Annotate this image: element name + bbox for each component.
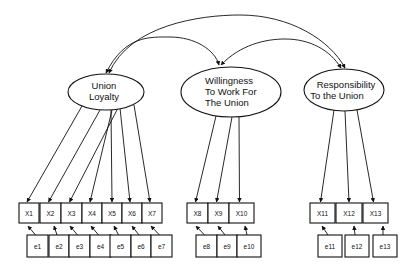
indicator-x12: X12: [336, 203, 362, 223]
error-label: e1: [34, 243, 42, 250]
indicator-label: X9: [215, 210, 223, 217]
latent-willingness: Willingness To Work For The Union: [181, 67, 281, 117]
correlation-loyalty-willingness: [106, 37, 219, 73]
loading-arrow-x9: [217, 117, 233, 202]
loading-arrow-x6: [120, 108, 130, 202]
loading-arrow-x2: [49, 110, 101, 202]
latent-label-line: Willingness: [205, 75, 253, 86]
indicator-label: X6: [128, 210, 136, 217]
indicator-label: X12: [343, 210, 355, 217]
indicator-x10: X10: [229, 203, 254, 223]
correlation-willingness-responsibility: [221, 39, 341, 68]
indicator-label: X1: [25, 210, 33, 217]
loading-arrow-x5: [111, 110, 112, 202]
error-e1: e1: [27, 235, 48, 257]
error-label: e4: [97, 243, 105, 250]
correlation-arcs: [106, 15, 345, 73]
indicator-x5: X5: [102, 203, 122, 223]
indicator-x7: X7: [142, 203, 162, 223]
loading-arrow-x11: [321, 110, 335, 202]
error-arrow-e10: [245, 226, 247, 235]
error-arrow-e4: [91, 226, 99, 235]
error-arrow-e3: [70, 226, 78, 235]
error-label: e7: [158, 243, 166, 250]
error-e8: e8: [196, 235, 217, 257]
error-e11: e11: [318, 235, 342, 257]
indicator-x1: X1: [19, 203, 39, 223]
factor-loadings: [27, 105, 374, 202]
error-arrow-e8: [196, 226, 205, 235]
sem-diagram: Union Loyalty Willingness To Work For Th…: [0, 0, 414, 273]
correlation-loyalty-responsibility: [109, 15, 345, 73]
error-label: e8: [203, 243, 211, 250]
error-label: e3: [76, 243, 84, 250]
error-label: e12: [352, 243, 363, 250]
error-e5: e5: [110, 235, 131, 257]
latent-label-line: The Union: [205, 97, 249, 108]
indicator-label: X13: [370, 210, 382, 217]
loading-arrow-x7: [134, 105, 150, 202]
error-label: e2: [55, 243, 63, 250]
latent-label-line: To Work For: [205, 86, 257, 97]
indicator-label: X7: [148, 210, 156, 217]
error-e13: e13: [373, 235, 397, 257]
error-e2: e2: [49, 235, 69, 257]
indicator-label: X2: [47, 210, 55, 217]
indicator-label: X4: [88, 210, 96, 217]
error-arrow-e11: [322, 226, 328, 235]
error-e10: e10: [237, 235, 261, 257]
error-label: e10: [244, 243, 255, 250]
indicator-boxes: X1X2X3X4X5X6X7X8X9X10X11X12X13: [19, 203, 388, 223]
error-arrow-e2: [54, 226, 57, 235]
error-label: e9: [223, 243, 231, 250]
error-arrow-e1: [28, 226, 36, 235]
loading-arrow-x8: [196, 116, 217, 202]
latent-label-line: Union: [92, 80, 117, 91]
error-label: e5: [117, 243, 125, 250]
indicator-label: X10: [236, 210, 248, 217]
loading-arrow-x12: [345, 111, 349, 202]
error-arrow-e12: [354, 226, 355, 235]
indicator-x2: X2: [40, 203, 61, 223]
indicator-x8: X8: [187, 203, 208, 223]
indicator-x13: X13: [363, 203, 388, 223]
error-e4: e4: [90, 235, 111, 257]
error-label: e13: [380, 243, 391, 250]
indicator-label: X3: [68, 210, 76, 217]
indicator-x3: X3: [61, 203, 82, 223]
loading-arrow-x13: [357, 110, 374, 202]
indicator-x11: X11: [310, 203, 335, 223]
error-e9: e9: [217, 235, 237, 257]
indicator-x4: X4: [82, 203, 102, 223]
latent-label-line: Responsibility: [317, 79, 376, 90]
error-boxes: e1e2e3e4e5e6e7e8e9e10e11e12e13: [27, 235, 397, 257]
indicator-label: X8: [194, 210, 202, 217]
error-arrow-e9: [218, 226, 225, 235]
error-arrow-e6: [132, 226, 139, 235]
error-label: e6: [137, 243, 145, 250]
error-paths: [28, 226, 383, 235]
loading-arrow-x10: [239, 117, 240, 202]
indicator-x9: X9: [208, 203, 229, 223]
error-e6: e6: [131, 235, 151, 257]
latent-label-line: To the Union: [310, 90, 363, 101]
error-e3: e3: [69, 235, 90, 257]
indicator-label: X5: [108, 210, 116, 217]
error-label: e11: [325, 243, 336, 250]
loading-arrow-x1: [27, 106, 82, 202]
error-e7: e7: [151, 235, 172, 257]
error-arrow-e7: [151, 226, 160, 235]
indicator-label: X11: [317, 210, 328, 217]
latent-responsibility: Responsibility To the Union: [304, 69, 384, 111]
error-e12: e12: [345, 235, 369, 257]
indicator-x6: X6: [122, 203, 142, 223]
error-arrow-e5: [114, 226, 119, 235]
latent-union-loyalty: Union Loyalty: [68, 74, 144, 110]
latent-label-line: Loyalty: [89, 91, 119, 102]
